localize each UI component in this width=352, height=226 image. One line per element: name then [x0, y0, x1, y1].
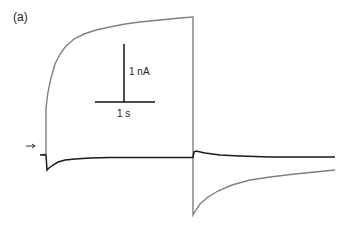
- baseline-arrow-icon: [26, 144, 35, 148]
- figure-panel: (a) 1 nA 1 s: [0, 0, 352, 226]
- gray-current-trace: [42, 17, 335, 215]
- scale-bar-current-label: 1 nA: [129, 66, 150, 77]
- black-current-trace: [40, 151, 335, 170]
- scale-bar-time-label: 1 s: [117, 108, 130, 119]
